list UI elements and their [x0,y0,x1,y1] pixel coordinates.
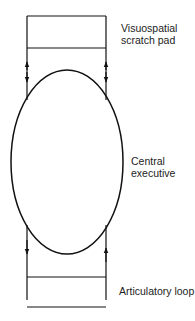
visuospatial-label-line2: scratch pad [121,34,177,46]
articulatory-loop-box [27,277,106,307]
visuospatial-label: Visuospatial scratch pad [121,22,177,46]
visuospatial-label-line1: Visuospatial [121,22,177,34]
upper-bidirectional-arrows [27,48,106,100]
central-label-line1: Central [131,155,175,167]
central-executive-label: Central executive [131,155,175,179]
visuospatial-box [27,16,106,48]
articulatory-label-line1: Articulatory loop [119,285,194,297]
articulatory-loop-label: Articulatory loop [119,285,194,297]
working-memory-diagram: Visuospatial scratch pad Central executi… [0,0,195,321]
central-label-line2: executive [131,167,175,179]
lower-arrows [27,225,106,300]
